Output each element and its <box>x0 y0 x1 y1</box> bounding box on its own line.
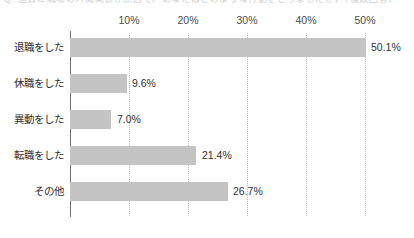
x-tick-label: 30% <box>236 14 257 26</box>
x-tick-label: 50% <box>354 14 375 26</box>
horizontal-bar-chart: 退職をした 休職をした 異動をした 転職をした その他 10% 20% 30% … <box>0 0 414 238</box>
plot-area: 10% 20% 30% 40% 50% 50.1% 9.6% 7.0% 21.4… <box>70 33 365 216</box>
gridline-50 <box>365 33 366 216</box>
x-tick-label: 20% <box>177 14 198 26</box>
bar-retired <box>70 38 366 57</box>
category-label: 休職をした <box>14 78 64 89</box>
bar-leave <box>70 74 127 93</box>
category-label: 異動をした <box>14 114 64 125</box>
gridline-40 <box>306 33 307 216</box>
category-label: その他 <box>34 186 64 197</box>
category-label-column: 退職をした 休職をした 異動をした 転職をした その他 <box>0 33 64 216</box>
bar-value-label: 21.4% <box>202 146 232 165</box>
bar-value-label: 26.7% <box>233 182 263 201</box>
bar-value-label: 50.1% <box>371 38 401 57</box>
bar-value-label: 7.0% <box>117 110 141 129</box>
category-label: 退職をした <box>14 42 64 53</box>
bar-other <box>70 182 228 201</box>
bar-value-label: 9.6% <box>132 74 156 93</box>
bar-changed-job <box>70 146 196 165</box>
category-label: 転職をした <box>14 150 64 161</box>
x-tick-label: 10% <box>118 14 139 26</box>
x-tick-label: 40% <box>295 14 316 26</box>
bar-transfer <box>70 110 111 129</box>
